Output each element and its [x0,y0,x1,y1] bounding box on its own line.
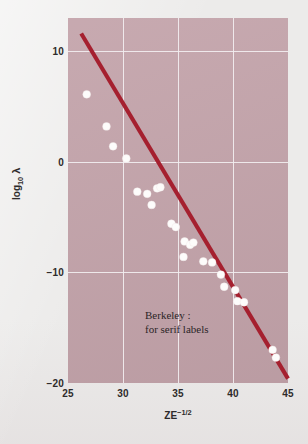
x-tick-label: 30 [117,388,129,399]
y-tick-label: 10 [52,46,64,57]
data-point [231,286,239,294]
data-point [208,259,216,267]
plot-annotation: Berkeley : for serif labels [145,308,209,336]
x-axis-title-exponent: −1/2 [177,408,192,417]
data-point [109,142,117,150]
data-point [172,223,180,231]
data-point [180,253,188,261]
x-tick-label: 45 [282,388,294,399]
y-tick-label: 0 [58,156,64,167]
y-axis-title: log10 λ [10,168,25,200]
data-point [269,346,277,354]
data-point [220,283,228,291]
data-point [83,90,91,98]
data-point [199,257,207,265]
y-axis-title-base: log [11,185,22,200]
x-tick-label: 35 [172,388,184,399]
y-axis-title-lambda: λ [10,168,22,177]
x-axis-title: ZE−1/2 [164,408,191,421]
data-point [190,239,198,247]
data-point [133,188,141,196]
data-point [103,122,111,130]
data-point [217,271,225,279]
x-axis-title-base: ZE [164,410,177,421]
y-axis-title-subscript: 10 [16,177,25,185]
annotation-line-2: for serif labels [145,322,209,336]
x-tick-label: 40 [227,388,239,399]
y-tick-label: −10 [46,267,64,278]
data-point [272,354,280,362]
figure-container: 2530354045 100−10−20 ZE−1/2 log10 λ Berk… [0,0,308,444]
data-point [122,155,130,163]
data-point [148,201,156,209]
x-tick-label: 25 [62,388,74,399]
data-point [143,190,151,198]
data-point [240,298,248,306]
annotation-line-1: Berkeley : [145,308,209,322]
y-tick-label: −20 [46,378,64,389]
data-point [157,183,165,191]
